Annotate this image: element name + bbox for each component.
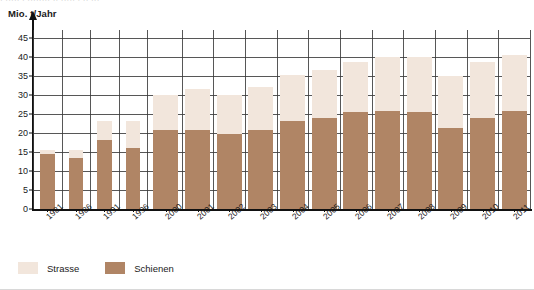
gridline-vertical bbox=[277, 30, 278, 209]
bar-segment-schienen bbox=[97, 140, 112, 209]
bar-2000 bbox=[153, 95, 178, 209]
bar-segment-strasse bbox=[407, 57, 432, 112]
y-axis-tick-label: 35 bbox=[18, 71, 28, 80]
y-axis-tick-mark bbox=[29, 37, 33, 38]
bar-2001 bbox=[185, 89, 210, 209]
chart-page: · ····· · ········ ·· ····· · ·· ··· Mio… bbox=[0, 0, 534, 290]
gridline-vertical bbox=[245, 30, 246, 209]
bar-segment-schienen bbox=[69, 158, 84, 209]
y-axis-tick-label: 20 bbox=[18, 128, 28, 137]
bar-2011 bbox=[502, 55, 527, 209]
bar-2010 bbox=[470, 62, 495, 209]
bar-2004 bbox=[280, 75, 305, 209]
y-axis-tick-label: 15 bbox=[18, 147, 28, 156]
y-axis-tick-mark bbox=[29, 209, 33, 210]
bar-segment-strasse bbox=[438, 76, 463, 128]
bar-segment-schienen bbox=[280, 121, 305, 209]
bar-1996 bbox=[126, 121, 141, 209]
bar-segment-strasse bbox=[312, 70, 337, 118]
bar-segment-strasse bbox=[40, 150, 55, 154]
legend-swatch-strasse bbox=[18, 262, 38, 274]
bar-segment-strasse bbox=[185, 89, 210, 130]
y-axis-arrow-icon bbox=[29, 11, 37, 20]
y-axis-tick-mark bbox=[29, 113, 33, 114]
y-axis-tick-mark bbox=[29, 132, 33, 133]
legend-label-strasse: Strasse bbox=[47, 263, 79, 274]
bar-segment-strasse bbox=[153, 95, 178, 130]
bar-segment-schienen bbox=[502, 111, 527, 209]
y-axis-tick-label: 25 bbox=[18, 109, 28, 118]
gridline-vertical bbox=[340, 30, 341, 209]
bar-segment-schienen bbox=[217, 134, 242, 209]
bar-segment-strasse bbox=[280, 75, 305, 122]
gridline-vertical bbox=[33, 30, 34, 209]
legend-label-schienen: Schienen bbox=[134, 263, 174, 274]
bar-segment-schienen bbox=[375, 111, 400, 209]
gridline-vertical bbox=[147, 30, 148, 209]
bar-segment-strasse bbox=[69, 150, 84, 158]
legend-swatch-schienen bbox=[105, 262, 125, 274]
bar-segment-strasse bbox=[126, 121, 141, 148]
plot-area: 0510152025303540451981198619911996200020… bbox=[33, 30, 530, 209]
bar-segment-strasse bbox=[502, 55, 527, 111]
bar-segment-strasse bbox=[217, 95, 242, 135]
gridline-vertical bbox=[403, 30, 404, 209]
gridline-vertical bbox=[372, 30, 373, 209]
y-axis-tick-label: 30 bbox=[18, 90, 28, 99]
chart-legend: StrasseSchienen bbox=[18, 262, 200, 274]
bar-1981 bbox=[40, 150, 55, 209]
y-axis-tick-mark bbox=[29, 56, 33, 57]
y-axis-tick-label: 40 bbox=[18, 52, 28, 61]
bar-segment-schienen bbox=[248, 130, 273, 209]
legend-item-strasse: Strasse bbox=[18, 262, 79, 274]
gridline-vertical bbox=[90, 30, 91, 209]
bar-segment-schienen bbox=[438, 128, 463, 209]
bar-segment-schienen bbox=[153, 130, 178, 209]
bar-2002 bbox=[217, 95, 242, 209]
bar-segment-schienen bbox=[40, 154, 55, 209]
bar-2007 bbox=[375, 57, 400, 209]
bar-segment-schienen bbox=[407, 112, 432, 209]
y-axis-tick-mark bbox=[29, 170, 33, 171]
bar-segment-schienen bbox=[126, 148, 141, 209]
gridline-vertical bbox=[530, 30, 531, 209]
gridline-vertical bbox=[182, 30, 183, 209]
bar-segment-strasse bbox=[248, 87, 273, 130]
gridline-vertical bbox=[498, 30, 499, 209]
bar-segment-strasse bbox=[375, 57, 400, 111]
bar-2008 bbox=[407, 57, 432, 209]
bar-1986 bbox=[69, 150, 84, 209]
bar-2005 bbox=[312, 70, 337, 209]
gridline-vertical bbox=[62, 30, 63, 209]
bar-segment-schienen bbox=[185, 130, 210, 209]
y-axis-tick-label: 0 bbox=[23, 205, 28, 214]
y-axis-tick-label: 45 bbox=[18, 33, 28, 42]
bar-segment-schienen bbox=[470, 118, 495, 209]
gridline-horizontal bbox=[33, 38, 530, 39]
y-axis-tick-mark bbox=[29, 189, 33, 190]
gridline-horizontal bbox=[33, 57, 530, 58]
y-axis-tick-mark bbox=[29, 75, 33, 76]
bar-segment-schienen bbox=[312, 118, 337, 209]
gridline-vertical bbox=[435, 30, 436, 209]
y-axis-tick-label: 10 bbox=[18, 166, 28, 175]
bar-segment-strasse bbox=[97, 121, 112, 140]
bar-2003 bbox=[248, 87, 273, 209]
gridline-vertical bbox=[308, 30, 309, 209]
bar-segment-schienen bbox=[343, 112, 368, 209]
y-axis-tick-label: 5 bbox=[23, 185, 28, 194]
cut-off-caption: · ····· · ········ ·· ····· · ·· ··· bbox=[0, 0, 534, 7]
y-axis-tick-mark bbox=[29, 94, 33, 95]
cut-off-caption-text: · ····· · ········ ·· ····· · ·· ··· bbox=[0, 0, 534, 4]
y-axis-tick-mark bbox=[29, 151, 33, 152]
gridline-vertical bbox=[467, 30, 468, 209]
bar-2006 bbox=[343, 62, 368, 209]
gridline-vertical bbox=[213, 30, 214, 209]
bar-2009 bbox=[438, 76, 463, 209]
bar-segment-strasse bbox=[470, 62, 495, 117]
bar-1991 bbox=[97, 121, 112, 209]
plot-inner bbox=[33, 30, 530, 209]
gridline-vertical bbox=[119, 30, 120, 209]
legend-item-schienen: Schienen bbox=[105, 262, 174, 274]
bar-segment-strasse bbox=[343, 62, 368, 112]
